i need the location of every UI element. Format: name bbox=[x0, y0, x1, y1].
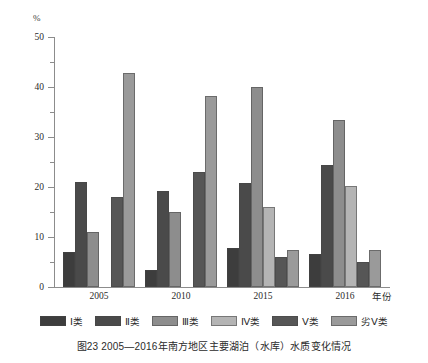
bar bbox=[123, 73, 135, 287]
legend-swatch bbox=[40, 316, 66, 326]
y-tick-major bbox=[48, 37, 54, 38]
legend-label: Ⅰ类 bbox=[70, 316, 83, 327]
legend-swatch bbox=[331, 316, 357, 326]
bar bbox=[275, 257, 287, 287]
y-tick-major bbox=[48, 87, 54, 88]
y-tick-label: 0 bbox=[20, 282, 44, 292]
legend-label: 劣Ⅴ类 bbox=[361, 316, 388, 327]
y-tick-minor bbox=[50, 262, 54, 263]
bar bbox=[333, 120, 345, 287]
legend-label: Ⅳ类 bbox=[241, 316, 260, 327]
y-tick-minor bbox=[50, 212, 54, 213]
bar bbox=[205, 96, 217, 287]
bar bbox=[145, 270, 157, 288]
legend-item[interactable]: Ⅰ类 bbox=[40, 316, 83, 327]
bar bbox=[251, 87, 263, 287]
legend-swatch bbox=[211, 316, 237, 326]
legend-item[interactable]: Ⅱ类 bbox=[95, 316, 140, 327]
y-tick-minor bbox=[50, 112, 54, 113]
y-tick-major bbox=[48, 237, 54, 238]
y-tick-label: 50 bbox=[20, 32, 44, 42]
legend-swatch bbox=[272, 316, 298, 326]
chart-legend: Ⅰ类Ⅱ类Ⅲ类Ⅳ类Ⅴ类劣Ⅴ类 bbox=[0, 312, 428, 330]
x-tick-label: 2015 bbox=[240, 291, 286, 302]
x-tick-label: 2016 bbox=[322, 291, 368, 302]
bar bbox=[157, 191, 169, 287]
y-tick-label: 10 bbox=[20, 232, 44, 242]
bar bbox=[263, 207, 275, 287]
legend-label: Ⅲ类 bbox=[182, 316, 199, 327]
bar bbox=[63, 252, 75, 287]
bar bbox=[193, 172, 205, 287]
figure-container: % 01020304050 2005201020152016 年份 Ⅰ类Ⅱ类Ⅲ类… bbox=[0, 0, 428, 363]
y-axis-unit-label: % bbox=[33, 13, 41, 23]
x-tick-label: 2005 bbox=[76, 291, 122, 302]
x-axis-line bbox=[54, 287, 390, 288]
bar bbox=[227, 248, 239, 287]
y-tick-label: 20 bbox=[20, 182, 44, 192]
legend-label: Ⅴ类 bbox=[302, 316, 319, 327]
bar bbox=[357, 262, 369, 287]
legend-item[interactable]: 劣Ⅴ类 bbox=[331, 316, 388, 327]
y-tick-major bbox=[48, 287, 54, 288]
legend-item[interactable]: Ⅲ类 bbox=[152, 316, 199, 327]
bar bbox=[239, 183, 251, 287]
bar bbox=[87, 232, 99, 287]
y-tick-major bbox=[48, 187, 54, 188]
y-tick-label: 40 bbox=[20, 82, 44, 92]
legend-swatch bbox=[95, 316, 121, 326]
bar bbox=[169, 212, 181, 287]
bar bbox=[309, 254, 321, 288]
y-tick-label: 30 bbox=[20, 132, 44, 142]
bar bbox=[75, 182, 87, 287]
legend-swatch bbox=[152, 316, 178, 326]
figure-caption: 图23 2005—2016年南方地区主要湖泊（水库）水质变化情况 bbox=[0, 340, 428, 354]
legend-item[interactable]: Ⅳ类 bbox=[211, 316, 260, 327]
legend-label: Ⅱ类 bbox=[125, 316, 140, 327]
bar bbox=[111, 197, 123, 287]
x-tick-label: 2010 bbox=[158, 291, 204, 302]
bar bbox=[321, 165, 333, 288]
y-tick-minor bbox=[50, 62, 54, 63]
bar-group-container bbox=[55, 37, 390, 287]
y-tick-minor bbox=[50, 162, 54, 163]
bar bbox=[345, 186, 357, 288]
bar bbox=[369, 250, 381, 288]
chart-plot-area: % 01020304050 2005201020152016 年份 bbox=[0, 0, 428, 300]
bar bbox=[287, 250, 299, 288]
legend-item[interactable]: Ⅴ类 bbox=[272, 316, 319, 327]
y-tick-major bbox=[48, 137, 54, 138]
x-axis-title: 年份 bbox=[372, 291, 392, 302]
